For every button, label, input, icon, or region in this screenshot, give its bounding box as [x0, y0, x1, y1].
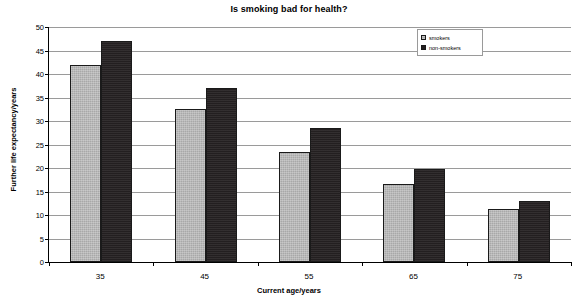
bar-smokers-75	[488, 209, 519, 262]
legend-swatch-smokers-icon	[421, 35, 426, 40]
bar-smokers-55	[279, 152, 310, 262]
bar-smokers-35	[70, 65, 101, 262]
bar-non-smokers-75	[519, 201, 550, 262]
x-tick-mark	[362, 262, 363, 266]
bar-group	[70, 27, 132, 262]
chart-legend: smokers non-smokers	[417, 29, 483, 56]
bar-non-smokers-45	[206, 88, 237, 262]
x-category-label: 65	[409, 272, 418, 281]
legend-item-non-smokers: non-smokers	[421, 43, 479, 52]
y-tick-label: 10	[36, 211, 44, 220]
x-tick-mark	[467, 262, 468, 266]
legend-label-smokers: smokers	[429, 35, 450, 41]
legend-label-non-smokers: non-smokers	[429, 45, 461, 51]
legend-swatch-non-smokers-icon	[421, 45, 426, 50]
x-category-label: 75	[513, 272, 522, 281]
legend-item-smokers: smokers	[421, 33, 479, 42]
y-tick-label: 50	[36, 23, 44, 32]
bar-non-smokers-55	[310, 128, 341, 262]
bar-group	[383, 27, 445, 262]
x-category-label: 55	[305, 272, 314, 281]
y-tick-label: 30	[36, 117, 44, 126]
y-tick-label: 5	[40, 234, 44, 243]
y-tick-label: 25	[36, 140, 44, 149]
x-tick-mark	[571, 262, 572, 266]
plot-area: 05101520253035404550	[48, 27, 571, 263]
y-tick-label: 40	[36, 70, 44, 79]
y-tick-label: 45	[36, 46, 44, 55]
bar-smokers-65	[383, 184, 414, 262]
x-tick-mark	[153, 262, 154, 266]
y-tick-label: 35	[36, 93, 44, 102]
y-tick-label: 15	[36, 187, 44, 196]
x-category-label: 35	[96, 272, 105, 281]
bar-group	[279, 27, 341, 262]
bar-non-smokers-65	[414, 169, 445, 262]
bar-chart: Is smoking bad for health? Further life …	[0, 0, 578, 307]
bar-smokers-45	[175, 109, 206, 262]
bar-non-smokers-35	[101, 41, 132, 262]
x-tick-mark	[258, 262, 259, 266]
x-category-label: 45	[200, 272, 209, 281]
x-axis-title: Current age/years	[0, 286, 578, 295]
y-tick-label: 0	[40, 258, 44, 267]
y-tick-label: 20	[36, 164, 44, 173]
x-tick-mark	[49, 262, 50, 266]
bars-layer	[49, 27, 571, 262]
chart-title: Is smoking bad for health?	[0, 4, 578, 14]
gridline	[49, 262, 571, 263]
y-axis-title: Further life expectancy/years	[9, 55, 18, 225]
bar-group	[175, 27, 237, 262]
bar-group	[488, 27, 550, 262]
